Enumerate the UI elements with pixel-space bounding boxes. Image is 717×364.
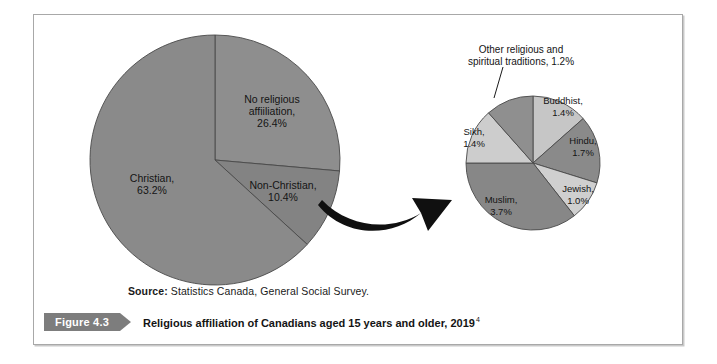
source-label: Source: (128, 285, 168, 297)
figure-container: No religiousaffiiliation,26.4%Non-Christ… (0, 0, 717, 364)
figure-number-badge: Figure 4.3 (44, 313, 131, 331)
figure-caption-text: Religious affiliation of Canadians aged … (143, 316, 480, 329)
source-text: Statistics Canada, General Social Survey… (168, 285, 369, 297)
caption-main: Religious affiliation of Canadians aged … (143, 316, 475, 328)
figure-caption-row: Figure 4.3 Religious affiliation of Cana… (44, 312, 480, 332)
source-line: Source: Statistics Canada, General Socia… (128, 285, 369, 297)
caption-footnote: 4 (476, 316, 480, 323)
